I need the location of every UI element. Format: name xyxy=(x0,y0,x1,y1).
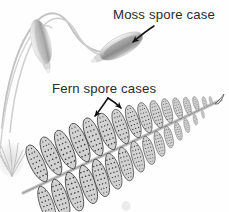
illustration-canvas: Moss spore case Fern spore cases xyxy=(0,0,229,212)
spore-case-figure: Moss spore case Fern spore cases xyxy=(0,0,229,212)
moss-tuft xyxy=(0,140,26,177)
label-moss-spore-case: Moss spore case xyxy=(113,7,215,22)
page-smudge xyxy=(122,201,131,211)
fern-frond xyxy=(22,94,224,212)
fern-spore-cases-arrow-right xyxy=(108,98,121,108)
label-fern-spore-cases: Fern spore cases xyxy=(52,81,157,96)
moss-capsule-right xyxy=(87,26,146,70)
